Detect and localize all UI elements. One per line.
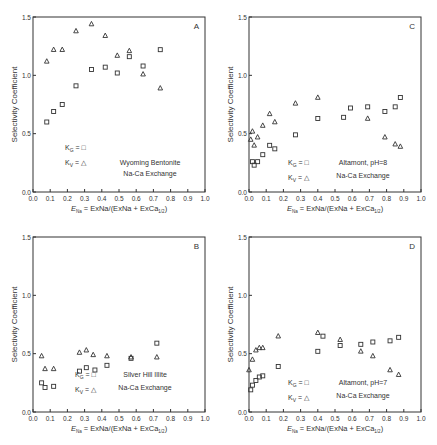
kg-square-marker [127,55,131,59]
x-tick-label: 0.2 [279,415,288,422]
y-tick-label: 0.0 [238,189,247,196]
kg-square-marker [155,341,159,345]
x-tick-label: 0.9 [183,195,192,202]
legend-equals: = □ [297,379,310,386]
x-tick-label: 0.8 [166,415,175,422]
y-axis-label: Selectivity Coefficient [226,286,235,363]
y-tick-label: 0.5 [238,350,247,357]
x-tick-label: 0.1 [262,415,271,422]
x-axis-label-part: = ExNa/(ExNa + ExCa [82,204,160,213]
y-tick-label: 1.5 [22,234,31,241]
x-tick-label: 0.0 [244,195,253,202]
kv-triangle-marker [388,367,393,371]
kv-triangle-marker [250,357,255,361]
kv-triangle-marker [383,135,388,139]
kv-triangle-marker [260,123,265,127]
kv-triangle-marker [141,72,146,76]
x-tick-label: 0.4 [313,195,322,202]
x-tick-label: 0.8 [382,415,391,422]
x-tick-label: 0.3 [80,415,89,422]
kg-square-marker [268,143,272,147]
plot-frame [249,237,421,412]
kg-square-marker [359,342,363,346]
sample-name-note: Silver Hill Illite [123,371,167,378]
sample-name-note: Altamont, pH=7 [339,379,388,387]
kv-triangle-marker [252,143,257,147]
kg-square-marker [276,365,280,369]
kg-square-marker [60,103,64,107]
kg-square-marker [45,120,49,124]
y-tick-label: 0.5 [22,130,31,137]
x-tick-label: 1.0 [200,195,209,202]
panel-letter: A [194,22,200,31]
kg-square-marker [105,363,109,367]
legend-kv: KV = △ [65,159,87,168]
chart-panel-c: 0.00.10.20.30.40.50.60.70.80.91.00.00.51… [216,0,434,222]
x-tick-label: 0.9 [183,415,192,422]
kg-square-marker [89,68,93,72]
kv-triangle-marker [74,28,79,32]
scatter-plot: 0.00.10.20.30.40.50.60.70.80.91.00.00.51… [0,220,218,442]
kg-square-marker [74,84,78,88]
legend-kv: KV = △ [75,386,97,395]
x-tick-label: 0.7 [149,415,158,422]
legend-kg: KG = □ [65,144,87,153]
y-axis-label: Selectivity Coefficient [226,66,235,143]
exchange-note: Na-Ca Exchange [123,170,176,178]
x-tick-label: 0.5 [114,195,123,202]
kg-square-marker [316,349,320,353]
exchange-note: Na-Ca Exchange [336,172,389,180]
kv-triangle-marker [393,142,398,146]
kg-square-marker [250,383,254,387]
y-tick-label: 0.5 [22,350,31,357]
scatter-plot: 0.00.10.20.30.40.50.60.70.80.91.00.00.51… [216,220,434,442]
kv-triangle-marker [255,135,260,139]
legend-kg: KG = □ [288,379,310,388]
x-tick-label: 0.7 [149,195,158,202]
panel-letter: C [409,22,415,31]
kg-square-marker [158,48,162,52]
kv-triangle-marker [398,144,403,148]
exchange-note: Na-Ca Exchange [118,384,171,392]
kv-triangle-marker [273,119,278,123]
x-tick-label: 0.5 [330,415,339,422]
x-tick-label: 0.1 [46,195,55,202]
x-tick-label: 0.1 [262,195,271,202]
x-tick-label: 0.6 [132,415,141,422]
kv-triangle-marker [371,353,376,357]
kv-triangle-marker [316,95,321,99]
kv-triangle-marker [396,372,401,376]
x-tick-label: 1.0 [416,415,425,422]
chart-panel-b: 0.00.10.20.30.40.50.60.70.80.91.00.00.51… [0,220,218,442]
kv-triangle-marker [260,345,265,349]
x-axis-label-part: ) [381,204,384,213]
kg-square-marker [52,110,56,114]
kg-square-marker [397,335,401,339]
panel-letter: B [194,242,199,251]
kv-triangle-marker [51,47,56,51]
kg-square-marker [141,64,145,68]
kv-triangle-marker [293,101,298,105]
x-tick-label: 0.7 [365,195,374,202]
kg-square-marker [103,65,107,69]
kv-triangle-marker [103,33,108,37]
kv-triangle-marker [89,21,94,25]
panel-letter: D [409,242,415,251]
y-tick-label: 0.5 [238,130,247,137]
kv-triangle-marker [115,53,120,57]
x-tick-label: 0.3 [80,195,89,202]
kg-square-marker [348,106,352,110]
x-axis-label-part: ) [381,424,384,433]
x-tick-label: 0.6 [132,195,141,202]
x-tick-label: 0.7 [365,415,374,422]
kg-square-marker [43,386,47,390]
x-tick-label: 0.8 [382,195,391,202]
x-tick-label: 0.4 [97,195,106,202]
y-tick-label: 0.0 [238,409,247,416]
kv-triangle-marker [158,86,163,90]
kg-square-marker [84,366,88,370]
legend-kg: KG = □ [288,159,310,168]
kv-triangle-marker [51,366,56,370]
x-tick-label: 0.1 [46,415,55,422]
y-tick-label: 1.0 [238,72,247,79]
